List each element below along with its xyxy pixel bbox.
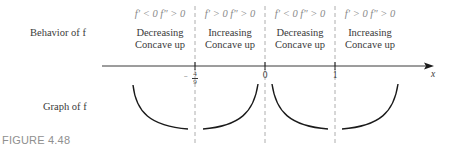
x-axis-label: x xyxy=(428,69,438,79)
interval-3-condition: f′ < 0 f″ > 0 xyxy=(265,8,335,19)
interval-4-line2: Concave up xyxy=(335,39,405,51)
curve-increasing-2 xyxy=(342,84,398,129)
figure-caption: FIGURE 4.48 xyxy=(2,134,70,146)
curve-increasing-1 xyxy=(203,84,258,129)
tick-label-denominator: 9 xyxy=(192,79,198,86)
interval-2-line1: Increasing xyxy=(195,27,265,39)
interval-4-line1: Increasing xyxy=(335,27,405,39)
interval-3-line2: Concave up xyxy=(265,39,335,51)
behavior-label: Behavior of f xyxy=(30,27,86,38)
interval-1-line1: Decreasing xyxy=(125,27,195,39)
tick-label-neg-4-9: − 4 9 xyxy=(186,71,202,86)
interval-4-condition: f′ > 0 f″ > 0 xyxy=(335,8,405,19)
graph-label: Graph of f xyxy=(43,101,87,112)
interval-3-description: Decreasing Concave up xyxy=(265,27,335,51)
tick-label-sign: − xyxy=(184,74,188,81)
interval-1-condition: f′ < 0 f″ > 0 xyxy=(125,8,195,19)
interval-2-description: Increasing Concave up xyxy=(195,27,265,51)
interval-2-line2: Concave up xyxy=(195,39,265,51)
tick-label-1: 1 xyxy=(330,70,340,80)
interval-3-line1: Decreasing xyxy=(265,27,335,39)
interval-2-condition: f′ > 0 f″ > 0 xyxy=(195,8,265,19)
interval-1-description: Decreasing Concave up xyxy=(125,27,195,51)
tick-label-0: 0 xyxy=(260,70,270,80)
curve-decreasing-1 xyxy=(133,85,188,129)
interval-1-line2: Concave up xyxy=(125,39,195,51)
curve-decreasing-2 xyxy=(272,84,328,129)
interval-4-description: Increasing Concave up xyxy=(335,27,405,51)
